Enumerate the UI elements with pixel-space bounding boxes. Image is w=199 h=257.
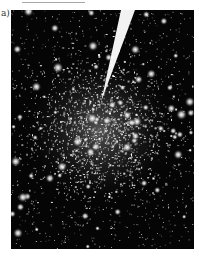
bright-streak: [11, 10, 194, 249]
top-rule-line: [22, 2, 85, 3]
streak-wedge: [101, 10, 135, 102]
panel-label: a): [1, 8, 10, 18]
star-cluster-photo: [11, 10, 194, 249]
